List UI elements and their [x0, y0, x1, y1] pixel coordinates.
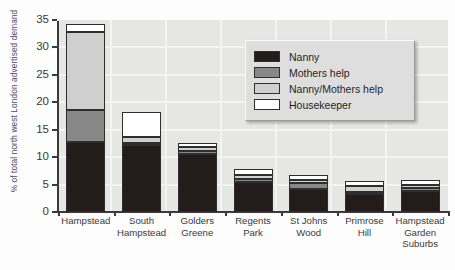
bar-segment-hkeep[interactable] — [289, 175, 328, 180]
stacked-bar-chart: 05101520253035 % of total north west Lon… — [0, 0, 455, 270]
legend-item-label: Mothers help — [289, 67, 350, 79]
legend-swatch-icon — [254, 51, 280, 62]
bar-segment-nmhelp[interactable] — [178, 147, 217, 151]
x-axis-label: St JohnsWood — [281, 215, 337, 238]
legend-item-housekeeper: Housekeeper — [254, 97, 408, 112]
x-axis-label-line: Hampstead — [392, 215, 448, 227]
x-axis-label-line: Hampstead — [58, 215, 114, 227]
x-axis-label-line: Wood — [281, 227, 337, 239]
bar-segment-hkeep[interactable] — [234, 169, 273, 174]
bar-segment-nmhelp[interactable] — [234, 175, 273, 179]
chart-legend: Nanny Mothers help Nanny/Mothers help Ho… — [245, 40, 415, 121]
x-axis-label-line: Primrose — [337, 215, 393, 227]
legend-item-nanny: Nanny — [254, 49, 408, 64]
bar-segment-hkeep[interactable] — [401, 180, 440, 184]
bar-segment-nanny[interactable] — [289, 189, 328, 212]
bar-segment-mhelp[interactable] — [289, 183, 328, 189]
stacked-bar[interactable] — [66, 20, 105, 212]
y-tick-mark — [52, 19, 57, 21]
y-tick-label: 35 — [36, 12, 49, 27]
stacked-bar[interactable] — [122, 20, 161, 212]
legend-swatch-icon — [254, 67, 280, 78]
bar-group[interactable] — [66, 20, 105, 212]
x-axis-label-line: Park — [225, 227, 281, 239]
bar-segment-nanny[interactable] — [401, 191, 440, 212]
x-axis-labels: HampsteadSouthHampsteadGoldersGreeneRege… — [58, 215, 448, 270]
y-tick-label: 5 — [43, 177, 49, 192]
y-tick-label: 30 — [36, 39, 49, 54]
bar-segment-nmhelp[interactable] — [66, 32, 105, 110]
bar-segment-hkeep[interactable] — [66, 24, 105, 32]
y-tick-label: 20 — [36, 94, 49, 109]
bar-segment-nanny[interactable] — [234, 182, 273, 212]
bar-segment-mhelp[interactable] — [234, 179, 273, 182]
x-axis-label-line: St Johns — [281, 215, 337, 227]
bar-group[interactable] — [122, 20, 161, 212]
legend-swatch-icon — [254, 99, 280, 110]
x-axis-label: SouthHampstead — [114, 215, 170, 238]
legend-item-nanny-mothers-help: Nanny/Mothers help — [254, 81, 408, 96]
y-tick-mark — [52, 184, 57, 186]
y-tick-label: 15 — [36, 122, 49, 137]
legend-swatch-icon — [254, 83, 280, 94]
x-axis-label-line: Greene — [169, 227, 225, 239]
y-tick-mark — [52, 74, 57, 76]
x-axis-label: Hampstead — [58, 215, 114, 227]
bar-segment-nanny[interactable] — [345, 194, 384, 212]
x-tick-mark — [448, 211, 450, 216]
bar-segment-hkeep[interactable] — [122, 112, 161, 137]
x-axis-label: GoldersGreene — [169, 215, 225, 238]
stacked-bar[interactable] — [178, 20, 217, 212]
bar-segment-nmhelp[interactable] — [122, 137, 161, 142]
y-tick-mark — [52, 156, 57, 158]
bar-segment-mhelp[interactable] — [178, 151, 217, 154]
bar-segment-nanny[interactable] — [178, 154, 217, 212]
y-axis-title: % of total north west London advertised … — [9, 1, 19, 201]
x-axis-label-line: Suburbs — [392, 238, 448, 250]
bar-segment-hkeep[interactable] — [345, 181, 384, 186]
y-tick-label: 10 — [36, 149, 49, 164]
y-tick-mark — [52, 129, 57, 131]
bar-segment-nmhelp[interactable] — [289, 180, 328, 183]
x-axis-label-line: Hampstead — [114, 227, 170, 239]
x-axis-label-line: South — [114, 215, 170, 227]
x-axis-label-line: Garden — [392, 227, 448, 239]
bar-segment-mhelp[interactable] — [345, 192, 384, 194]
y-tick-mark — [52, 101, 57, 103]
y-tick-label: 25 — [36, 67, 49, 82]
y-tick-mark — [52, 211, 57, 213]
x-axis-label: HampsteadGardenSuburbs — [392, 215, 448, 250]
x-axis-label-line: Regents — [225, 215, 281, 227]
bar-segment-nmhelp[interactable] — [401, 185, 440, 188]
y-tick-mark — [52, 46, 57, 48]
legend-item-label: Nanny — [289, 51, 319, 63]
y-tick-label: 0 — [43, 204, 49, 219]
x-axis-label-line: Hill — [337, 227, 393, 239]
bar-segment-mhelp[interactable] — [401, 188, 440, 191]
bar-segment-nanny[interactable] — [122, 145, 161, 212]
x-axis-label-line: Golders — [169, 215, 225, 227]
x-axis-label: RegentsPark — [225, 215, 281, 238]
bar-group[interactable] — [178, 20, 217, 212]
legend-item-mothers-help: Mothers help — [254, 65, 408, 80]
legend-item-label: Nanny/Mothers help — [289, 83, 383, 95]
bar-segment-nmhelp[interactable] — [345, 186, 384, 192]
bar-segment-nanny[interactable] — [66, 142, 105, 212]
bar-segment-hkeep[interactable] — [178, 143, 217, 147]
x-axis-label: PrimroseHill — [337, 215, 393, 238]
bar-segment-mhelp[interactable] — [66, 110, 105, 142]
legend-item-label: Housekeeper — [289, 99, 351, 111]
